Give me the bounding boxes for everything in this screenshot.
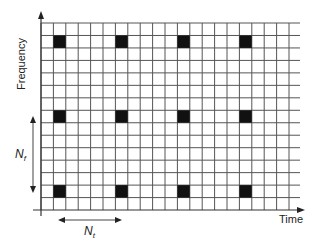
nt-subscript: t — [93, 231, 95, 240]
pilot-grid-diagram — [0, 0, 321, 246]
y-axis-label: Frequency — [15, 29, 27, 99]
pilot-cell — [239, 185, 251, 197]
nt-label: Nt — [84, 224, 95, 240]
pilot-cell — [115, 35, 127, 47]
nt-arrow-right-icon — [115, 217, 122, 223]
nf-arrow-down-icon — [30, 186, 36, 193]
x-axis-label: Time — [279, 213, 303, 225]
nf-label: Nf — [15, 147, 26, 163]
pilot-cell — [115, 110, 127, 122]
pilot-cell — [177, 185, 189, 197]
nt-arrow-left-icon — [58, 217, 65, 223]
pilot-cell — [239, 35, 251, 47]
nf-arrow-up-icon — [30, 116, 36, 123]
nf-subscript: f — [24, 154, 26, 163]
pilot-cell — [177, 35, 189, 47]
pilot-cell — [53, 110, 65, 122]
y-axis-arrow-icon — [38, 11, 44, 19]
grid-lines — [41, 23, 300, 210]
pilot-cell — [53, 35, 65, 47]
pilot-cell — [177, 110, 189, 122]
nt-symbol: N — [84, 224, 93, 238]
pilot-cell — [239, 110, 251, 122]
pilot-cell — [53, 185, 65, 197]
pilot-cell — [115, 185, 127, 197]
nf-symbol: N — [15, 147, 24, 161]
